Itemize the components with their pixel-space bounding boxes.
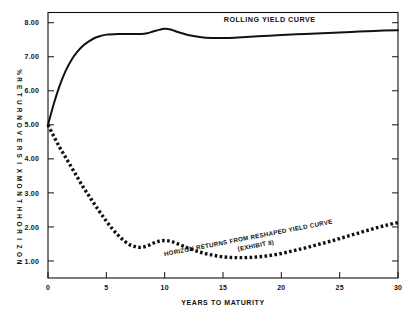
- y-axis-title-char: V: [16, 131, 23, 136]
- y-axis-title-char: H: [16, 206, 23, 211]
- y-axis-title-char: T: [16, 199, 23, 203]
- x-tick-label: 30: [394, 284, 402, 291]
- y-axis-title-char: Z: [16, 245, 23, 249]
- series-line-dotted: [48, 125, 398, 258]
- yield-curve-chart: 1.002.003.004.005.006.007.008.00 0510152…: [0, 0, 417, 315]
- series-layer: [48, 29, 398, 258]
- x-tick-label: 0: [46, 284, 50, 291]
- series-labels: ROLLING YIELD CURVEHORIZON RETURNS FROM …: [163, 15, 334, 266]
- x-tick-label: 5: [104, 284, 108, 291]
- y-tick-label: 6.00: [25, 87, 39, 94]
- y-tick-label: 1.00: [25, 258, 39, 265]
- y-axis-title-char: I: [16, 238, 23, 240]
- series-line-solid: [48, 29, 398, 125]
- y-axis-title-char: O: [16, 184, 23, 189]
- y-axis-title-char: R: [16, 77, 23, 82]
- y-axis-ticks: 1.002.003.004.005.006.007.008.00: [25, 19, 398, 264]
- x-tick-label: 10: [161, 284, 169, 291]
- series-label-rolling-yield-curve: ROLLING YIELD CURVE: [224, 15, 316, 24]
- y-axis-title-char: U: [16, 100, 23, 105]
- y-axis-title-char: E: [16, 138, 23, 143]
- y-axis-title-char: X: [16, 169, 23, 174]
- y-tick-label: 3.00: [25, 190, 39, 197]
- y-axis-title-char: O: [16, 123, 23, 128]
- y-axis-title-char: R: [16, 108, 23, 113]
- series-label-horizon-returns-group: HORIZON RETURNS FROM RESHAPED YIELD CURV…: [163, 218, 334, 266]
- y-axis-title-char: %: [16, 69, 23, 75]
- y-axis-title-char: E: [16, 85, 23, 90]
- y-axis-title-char: H: [16, 214, 23, 219]
- y-axis-title-char: O: [16, 252, 23, 257]
- y-tick-label: 2.00: [25, 224, 39, 231]
- y-axis-title-char: S: [16, 153, 23, 158]
- y-axis-title-char: O: [16, 222, 23, 227]
- x-tick-label: 25: [336, 284, 344, 291]
- y-axis-title: %RETURNOVERSIXMONTHHORIZON: [16, 69, 23, 265]
- y-tick-label: 4.00: [25, 155, 39, 162]
- y-axis-title-char: N: [16, 115, 23, 120]
- y-tick-label: 5.00: [25, 121, 39, 128]
- y-axis-title-char: N: [16, 260, 23, 265]
- y-axis-title-char: R: [16, 229, 23, 234]
- x-tick-label: 15: [219, 284, 227, 291]
- y-axis-title-char: I: [16, 162, 23, 164]
- chart-container: 1.002.003.004.005.006.007.008.00 0510152…: [0, 0, 417, 315]
- y-axis-title-char: N: [16, 191, 23, 196]
- x-axis-title: YEARS TO MATURITY: [181, 299, 264, 306]
- series-label-horizon-returns: HORIZON RETURNS FROM RESHAPED YIELD CURV…: [163, 218, 333, 258]
- x-tick-label: 20: [277, 284, 285, 291]
- y-axis-title-char: M: [16, 176, 23, 181]
- y-axis-title-char: R: [16, 146, 23, 151]
- y-axis-title-char: T: [16, 93, 23, 97]
- y-tick-label: 8.00: [25, 19, 39, 26]
- x-axis-ticks: 051015202530: [46, 272, 402, 291]
- y-tick-label: 7.00: [25, 53, 39, 60]
